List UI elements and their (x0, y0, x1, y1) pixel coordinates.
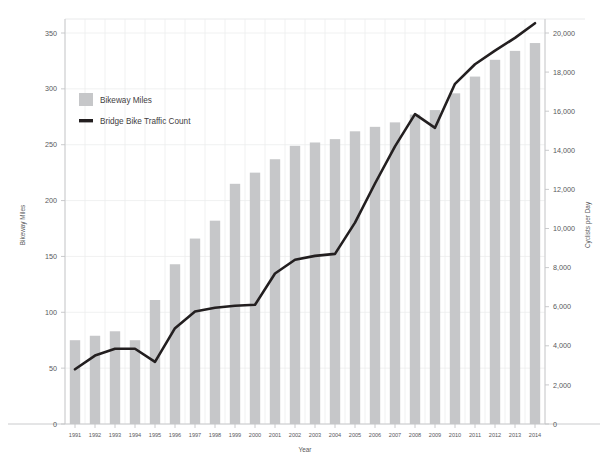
x-tick-2001: 2001 (269, 432, 281, 438)
x-tick-2007: 2007 (389, 432, 401, 438)
bar-2008 (410, 115, 420, 424)
x-tick-2000: 2000 (249, 432, 261, 438)
bar-2004 (330, 139, 340, 424)
bar-1991 (70, 340, 80, 424)
right-tick-6000: 6,000 (553, 302, 571, 311)
x-tick-1991: 1991 (69, 432, 81, 438)
left-tick-100: 100 (45, 308, 57, 317)
left-tick-300: 300 (45, 84, 57, 93)
left-tick-0: 0 (53, 420, 57, 429)
x-tick-2006: 2006 (369, 432, 381, 438)
bar-2013 (510, 51, 520, 424)
left-tick-250: 250 (45, 140, 57, 149)
legend-swatch-bikeway-miles (79, 93, 93, 106)
x-tick-2003: 2003 (309, 432, 321, 438)
bar-1996 (170, 264, 180, 424)
x-tick-2012: 2012 (489, 432, 501, 438)
left-tick-200: 200 (45, 196, 57, 205)
bar-1999 (230, 184, 240, 424)
right-tick-20000: 20,000 (553, 29, 575, 38)
x-tick-2005: 2005 (349, 432, 361, 438)
bar-2006 (370, 127, 380, 424)
x-tick-1995: 1995 (149, 432, 161, 438)
bar-1993 (110, 331, 120, 424)
x-tick-2004: 2004 (329, 432, 341, 438)
right-tick-12000: 12,000 (553, 185, 575, 194)
bar-2007 (390, 122, 400, 424)
bar-2001 (270, 159, 280, 424)
x-tick-2009: 2009 (429, 432, 441, 438)
right-tick-4000: 4,000 (553, 341, 571, 350)
right-tick-10000: 10,000 (553, 224, 575, 233)
x-axis-title: Year (299, 446, 313, 453)
legend-label-bikeway-miles: Bikeway Miles (100, 96, 152, 105)
bar-2002 (290, 146, 300, 424)
bar-1994 (130, 340, 140, 424)
x-tick-1993: 1993 (109, 432, 121, 438)
right-tick-14000: 14,000 (553, 146, 575, 155)
bar-2011 (470, 77, 480, 424)
x-tick-2014: 2014 (529, 432, 541, 438)
legend-label-bridge-bike-traffic-count: Bridge Bike Traffic Count (100, 117, 191, 126)
right-tick-16000: 16,000 (553, 107, 575, 116)
x-tick-1998: 1998 (209, 432, 221, 438)
bar-2005 (350, 131, 360, 424)
bar-2003 (310, 142, 320, 424)
x-tick-2013: 2013 (509, 432, 521, 438)
bar-2010 (450, 93, 460, 424)
x-tick-2010: 2010 (449, 432, 461, 438)
left-tick-350: 350 (45, 29, 57, 38)
legend-swatch-bridge-bike-traffic-count (79, 119, 93, 122)
bikeway-miles-and-bridge-traffic-chart: 050100150200250300350 02,0004,0006,0008,… (0, 0, 607, 464)
left-tick-50: 50 (49, 364, 57, 373)
right-tick-0: 0 (553, 420, 557, 429)
bar-1992 (90, 336, 100, 424)
right-tick-2000: 2,000 (553, 381, 571, 390)
x-tick-2011: 2011 (469, 432, 481, 438)
bar-2014 (530, 43, 540, 424)
bar-2012 (490, 60, 500, 424)
x-tick-1992: 1992 (89, 432, 101, 438)
x-tick-1999: 1999 (229, 432, 241, 438)
x-tick-2008: 2008 (409, 432, 421, 438)
left-axis-title: Bikeway Miles (19, 205, 27, 246)
bar-2009 (430, 110, 440, 424)
x-tick-1994: 1994 (129, 432, 141, 438)
right-axis-title: Cyclists per Day (584, 201, 592, 248)
x-tick-2002: 2002 (289, 432, 301, 438)
bar-1998 (210, 221, 220, 424)
left-tick-150: 150 (45, 252, 57, 261)
bar-1997 (190, 239, 200, 424)
x-tick-1996: 1996 (169, 432, 181, 438)
right-tick-8000: 8,000 (553, 263, 571, 272)
chart-container: 050100150200250300350 02,0004,0006,0008,… (0, 0, 607, 464)
right-tick-18000: 18,000 (553, 68, 575, 77)
x-tick-1997: 1997 (189, 432, 201, 438)
